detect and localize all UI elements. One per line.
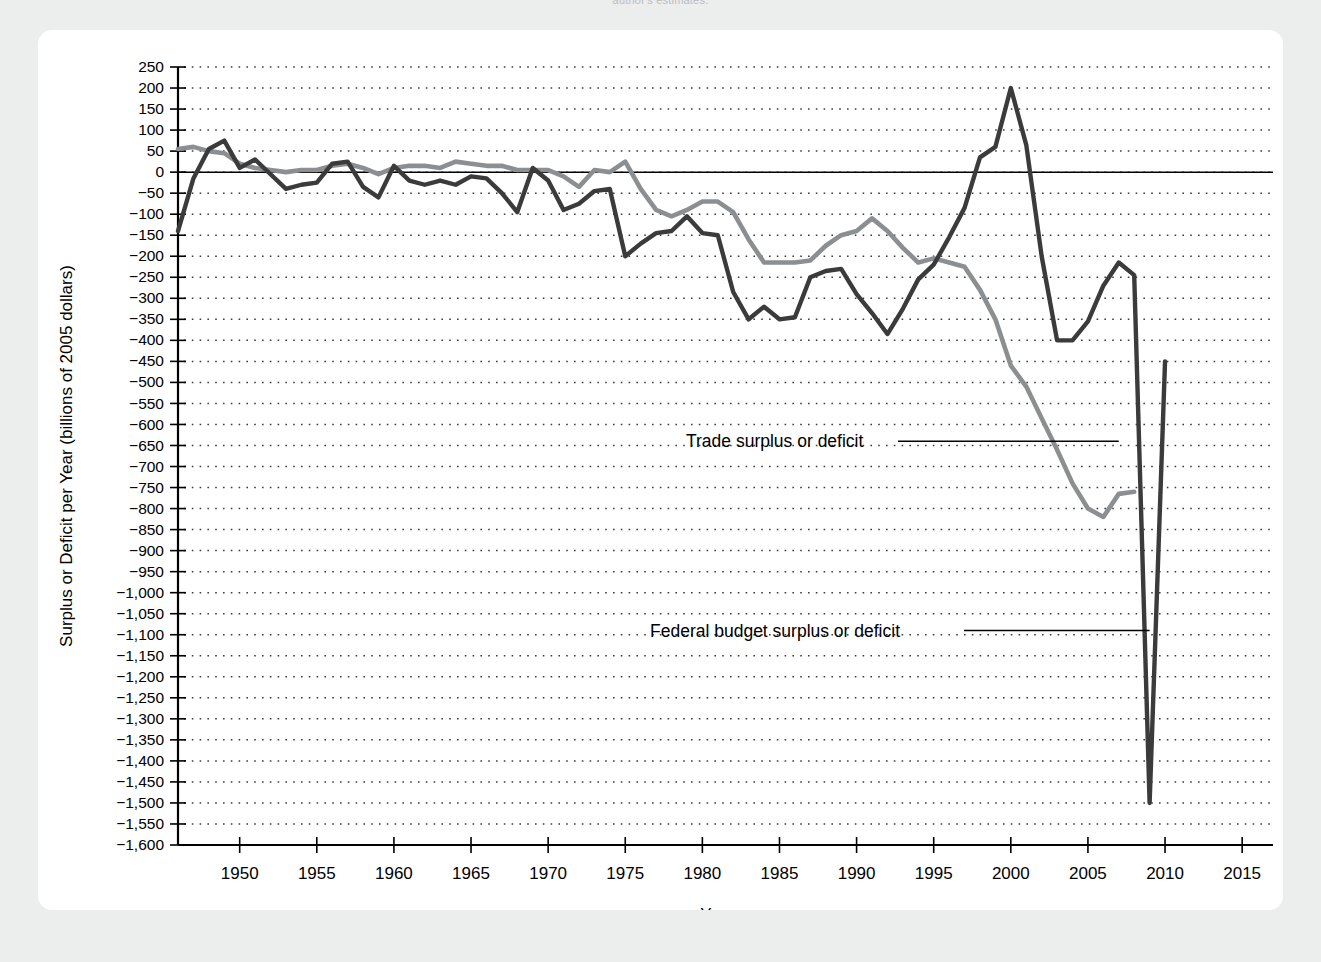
- x-tick-label: 2010: [1146, 864, 1184, 883]
- y-tick-label: −1,350: [116, 731, 164, 748]
- x-tick-label: 1965: [452, 864, 490, 883]
- figure-card: 250200150100500−50−100−150−200−250−300−3…: [38, 30, 1283, 910]
- y-tick-label: −550: [129, 395, 164, 412]
- x-tick-label: 1990: [838, 864, 876, 883]
- x-tick-label: 1960: [375, 864, 413, 883]
- y-tick-label: −350: [129, 310, 164, 327]
- y-tick-label: −950: [129, 563, 164, 580]
- y-tick-label: −1,300: [116, 710, 164, 727]
- x-tick-label: 2015: [1223, 864, 1261, 883]
- y-tick-label: −1,200: [116, 668, 164, 685]
- y-tick-label: −850: [129, 521, 164, 538]
- y-tick-label: −1,250: [116, 689, 164, 706]
- y-axis-title: Surplus or Deficit per Year (billions of…: [57, 265, 76, 647]
- trade-series-label: Trade surplus or deficit: [686, 431, 863, 451]
- y-tick-label: −1,550: [116, 815, 164, 832]
- y-tick-label: −1,050: [116, 605, 164, 622]
- y-tick-label: −150: [129, 226, 164, 243]
- x-tick-label: 1950: [221, 864, 259, 883]
- y-tick-label: 150: [138, 100, 164, 117]
- y-tick-label: −450: [129, 352, 164, 369]
- x-tick-label: 1985: [761, 864, 799, 883]
- y-tick-label: −700: [129, 458, 164, 475]
- y-tick-label: −50: [138, 184, 165, 201]
- y-tick-label: −300: [129, 289, 164, 306]
- x-tick-label: 2000: [992, 864, 1030, 883]
- y-tick-label: −650: [129, 437, 164, 454]
- y-tick-label: 50: [147, 142, 165, 159]
- y-tick-label: −1,500: [116, 794, 164, 811]
- y-tick-label: −800: [129, 500, 164, 517]
- top-caption-text: author's estimates.: [0, 0, 1321, 6]
- y-tick-label: −100: [129, 205, 164, 222]
- y-axis-ticks: 250200150100500−50−100−150−200−250−300−3…: [116, 58, 186, 853]
- y-tick-label: −250: [129, 268, 164, 285]
- y-tick-label: −1,150: [116, 647, 164, 664]
- chart-plot-area: 250200150100500−50−100−150−200−250−300−3…: [38, 30, 1283, 910]
- series-line-trade: [178, 147, 1134, 517]
- x-tick-label: 1995: [915, 864, 953, 883]
- x-tick-label: 1975: [606, 864, 644, 883]
- y-tick-label: −200: [129, 247, 164, 264]
- y-tick-label: −900: [129, 542, 164, 559]
- y-tick-label: −1,000: [116, 584, 164, 601]
- y-tick-label: 200: [138, 79, 164, 96]
- y-tick-label: 0: [155, 163, 164, 180]
- budget-series-label: Federal budget surplus or deficit: [650, 621, 900, 641]
- y-tick-label: 250: [138, 58, 164, 75]
- series-annotations: Trade surplus or deficit Federal budget …: [650, 431, 1150, 640]
- y-tick-label: −500: [129, 373, 164, 390]
- y-tick-label: −1,400: [116, 752, 164, 769]
- figure-page: author's estimates. 250200150100500−50−1…: [0, 0, 1321, 962]
- y-tick-label: −600: [129, 416, 164, 433]
- y-tick-label: −400: [129, 331, 164, 348]
- y-tick-label: −1,600: [116, 836, 164, 853]
- x-tick-label: 1980: [683, 864, 721, 883]
- series-line-budget: [178, 88, 1165, 803]
- line-chart: 250200150100500−50−100−150−200−250−300−3…: [38, 30, 1283, 910]
- y-tick-label: −750: [129, 479, 164, 496]
- y-tick-label: −1,100: [116, 626, 164, 643]
- y-tick-label: −1,450: [116, 773, 164, 790]
- x-tick-label: 1955: [298, 864, 336, 883]
- x-axis-title: Year: [700, 905, 735, 910]
- y-tick-label: 100: [138, 121, 164, 138]
- x-tick-label: 1970: [529, 864, 567, 883]
- x-tick-label: 2005: [1069, 864, 1107, 883]
